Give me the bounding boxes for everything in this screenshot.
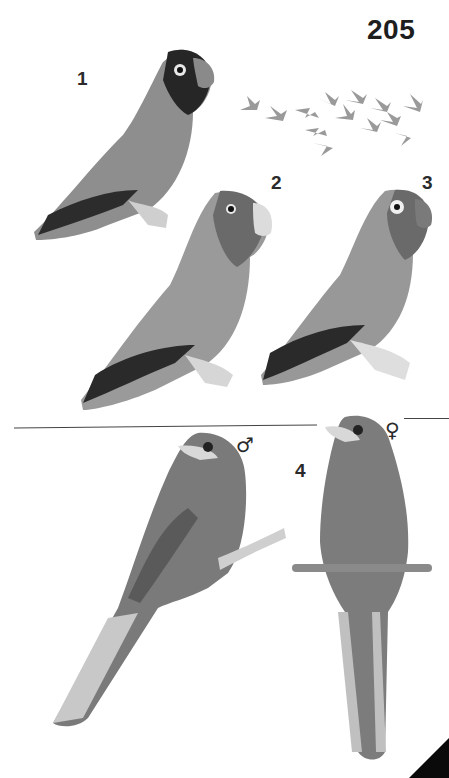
bird-illustration-4-female	[290, 412, 435, 767]
page-number: 205	[367, 14, 415, 46]
bird-illustration-3	[255, 185, 440, 390]
bird-illustration-2	[75, 185, 280, 415]
bird-illustration-4-male	[48, 428, 288, 733]
page-corner-shadow	[409, 738, 449, 778]
bird-flock-illustration	[235, 88, 425, 158]
